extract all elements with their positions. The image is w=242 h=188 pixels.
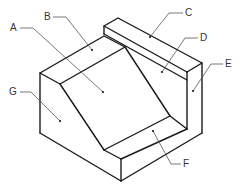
label-a: A	[10, 23, 17, 33]
label-b: B	[44, 12, 51, 22]
label-e: E	[225, 59, 232, 69]
leader-e	[193, 64, 223, 91]
label-c: C	[185, 8, 192, 18]
leader-b	[53, 17, 92, 50]
label-f: F	[183, 159, 189, 169]
dot-b	[91, 49, 93, 51]
block-drawing	[0, 0, 242, 188]
dot-c	[149, 36, 151, 38]
isometric-block-diagram: A B C D E F G	[0, 0, 242, 188]
dot-a	[102, 91, 104, 93]
label-g: G	[9, 87, 17, 97]
dot-d	[161, 71, 163, 73]
leader-d	[162, 38, 198, 72]
dot-g	[59, 120, 61, 122]
object-edges	[40, 18, 202, 181]
dot-e	[192, 90, 194, 92]
label-d: D	[200, 33, 207, 43]
dot-f	[152, 130, 154, 132]
leader-c	[150, 13, 183, 37]
